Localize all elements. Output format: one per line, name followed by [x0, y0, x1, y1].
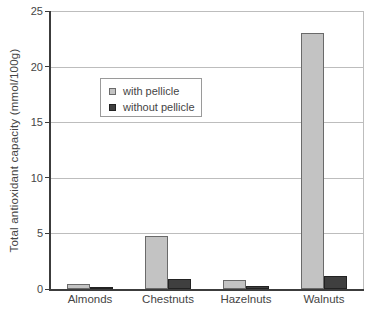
y-tick-mark-0: [45, 289, 49, 290]
category-label-hazelnuts: Hazelnuts: [207, 293, 285, 306]
y-tick-label-0: 0: [17, 283, 43, 295]
y-tick-label-20: 20: [17, 61, 43, 73]
category-label-chestnuts: Chestnuts: [129, 293, 207, 306]
bar-chart-figure: Total antioxidant capacity (mmol/100g) 0…: [0, 0, 376, 315]
legend: with pelliclewithout pellicle: [100, 78, 202, 117]
category-label-almonds: Almonds: [51, 293, 129, 306]
legend-item-with-pellicle: with pellicle: [109, 83, 201, 99]
y-tick-label-10: 10: [17, 172, 43, 184]
y-axis-title: Total antioxidant capacity (mmol/100g): [7, 1, 22, 301]
plot-right-border: [363, 11, 364, 290]
x-axis-line: [49, 289, 364, 291]
legend-item-without-pellicle: without pellicle: [109, 99, 201, 115]
y-tick-mark-25: [45, 11, 49, 12]
y-tick-mark-15: [45, 122, 49, 123]
y-tick-label-5: 5: [17, 227, 43, 239]
plot-area: [51, 11, 363, 289]
category-label-walnuts: Walnuts: [285, 293, 363, 306]
y-axis-line: [49, 11, 51, 291]
legend-label-without-pellicle: without pellicle: [123, 101, 195, 113]
bar-hazelnuts-with-pellicle: [223, 280, 246, 289]
gridline-25: [51, 11, 363, 12]
y-tick-mark-10: [45, 177, 49, 178]
y-tick-label-15: 15: [17, 116, 43, 128]
bar-walnuts-without-pellicle: [324, 276, 347, 289]
bar-walnuts-with-pellicle: [301, 33, 324, 289]
legend-swatch-without-pellicle: [109, 104, 116, 111]
bar-chestnuts-without-pellicle: [168, 279, 191, 289]
legend-label-with-pellicle: with pellicle: [123, 85, 179, 97]
y-tick-mark-5: [45, 233, 49, 234]
y-tick-label-25: 25: [17, 5, 43, 17]
bar-chestnuts-with-pellicle: [145, 236, 168, 289]
legend-swatch-with-pellicle: [109, 88, 116, 95]
y-tick-mark-20: [45, 66, 49, 67]
